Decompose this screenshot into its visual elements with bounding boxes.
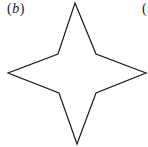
star-shape xyxy=(8,3,146,144)
four-pointed-star-diagram xyxy=(0,0,148,147)
